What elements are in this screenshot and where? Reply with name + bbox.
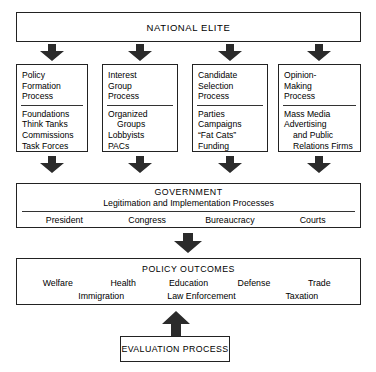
- divider: [21, 105, 83, 106]
- government-branches: President Congress Bureaucracy Courts: [17, 215, 360, 225]
- candidate-selection-process-title: Candidate Selection Process: [193, 69, 267, 105]
- government-subtitle: Legitimation and Implementation Processe…: [17, 198, 360, 209]
- government-branch-courts: Courts: [271, 215, 354, 225]
- policy-outcome-welfare: Welfare: [25, 277, 90, 290]
- arrow-down-icon-interest-group-to-government: [127, 156, 153, 173]
- national-elite-label: NATIONAL ELITE: [147, 22, 231, 33]
- arrow-down-icon-government-to-policy-outcomes: [173, 233, 203, 253]
- arrow-down-icon-elite-to-opinion-making: [306, 44, 332, 61]
- policy-outcome-law-enforcement: Law Enforcement: [151, 290, 251, 303]
- government-box: GOVERNMENT Legitimation and Implementati…: [16, 183, 361, 228]
- policy-outcome-health: Health: [90, 277, 155, 290]
- government-branch-bureaucracy: Bureaucracy: [189, 215, 272, 225]
- elite-policy-process-diagram: NATIONAL ELITE Policy Formation Process …: [0, 0, 376, 372]
- opinion-making-process-items: Mass Media Advertising and Public Relati…: [279, 109, 360, 151]
- policy-outcome-taxation: Taxation: [252, 290, 352, 303]
- government-branch-president: President: [23, 215, 106, 225]
- interest-group-process-title: Interest Group Process: [103, 69, 177, 105]
- government-branch-congress: Congress: [106, 215, 189, 225]
- policy-outcome-education: Education: [156, 277, 221, 290]
- policy-outcomes-title: POLICY OUTCOMES: [17, 263, 360, 275]
- policy-outcomes-box: POLICY OUTCOMES Welfare Health Education…: [16, 258, 361, 305]
- arrow-down-icon-policy-formation-to-government: [39, 156, 65, 173]
- opinion-making-process-box: Opinion- Making Process Mass Media Adver…: [278, 64, 361, 152]
- policy-outcome-defense: Defense: [221, 277, 286, 290]
- national-elite-box: NATIONAL ELITE: [16, 12, 361, 42]
- divider: [22, 211, 355, 212]
- policy-outcome-trade: Trade: [287, 277, 352, 290]
- arrow-down-icon-elite-to-interest-group: [127, 44, 153, 61]
- evaluation-process-label: EVALUATION PROCESS: [121, 344, 228, 354]
- arrow-down-icon-candidate-selection-to-government: [217, 156, 243, 173]
- policy-outcomes-row-top: Welfare Health Education Defense Trade: [17, 275, 360, 290]
- policy-formation-process-title: Policy Formation Process: [17, 69, 87, 105]
- candidate-selection-process-box: Candidate Selection Process Parties Camp…: [192, 64, 268, 152]
- arrow-down-icon-elite-to-policy-formation: [39, 44, 65, 61]
- candidate-selection-process-items: Parties Campaigns “Fat Cats” Funding: [193, 109, 267, 151]
- divider: [107, 105, 173, 106]
- arrow-down-icon-opinion-making-to-government: [306, 156, 332, 173]
- policy-outcome-immigration: Immigration: [51, 290, 151, 303]
- policy-outcomes-row-bottom: Immigration Law Enforcement Taxation: [17, 290, 360, 303]
- evaluation-process-box: EVALUATION PROCESS: [120, 336, 230, 362]
- policy-formation-process-box: Policy Formation Process Foundations Thi…: [16, 64, 88, 152]
- opinion-making-process-title: Opinion- Making Process: [279, 69, 360, 105]
- interest-group-process-box: Interest Group Process Organized Groups …: [102, 64, 178, 152]
- interest-group-process-items: Organized Groups Lobbyists PACs: [103, 109, 177, 151]
- divider: [197, 105, 263, 106]
- government-title: GOVERNMENT: [17, 187, 360, 198]
- arrow-down-icon-elite-to-candidate-selection: [217, 44, 243, 61]
- arrow-up-icon-evaluation-to-policy-outcomes: [161, 311, 191, 336]
- policy-formation-process-items: Foundations Think Tanks Commissions Task…: [17, 109, 87, 151]
- divider: [283, 105, 356, 106]
